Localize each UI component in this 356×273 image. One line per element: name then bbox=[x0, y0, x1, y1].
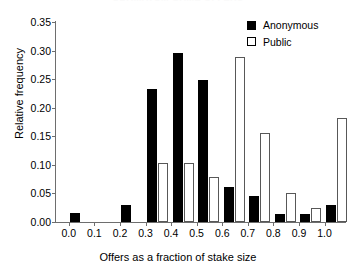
x-tick-label: 0.5 bbox=[189, 228, 204, 239]
x-tick-label: 0.3 bbox=[138, 228, 153, 239]
legend-label-anonymous: Anonymous bbox=[263, 20, 318, 31]
y-tick-label: 0.10 bbox=[31, 160, 51, 171]
x-tick-mark bbox=[146, 222, 147, 226]
y-tick-mark bbox=[52, 79, 56, 80]
bar-public-0.5 bbox=[209, 177, 219, 222]
x-tick-mark bbox=[248, 222, 249, 226]
y-tick-mark bbox=[52, 136, 56, 137]
bar-anonymous-0.9 bbox=[300, 214, 310, 222]
y-tick-mark bbox=[52, 222, 56, 223]
x-tick-label: 0.6 bbox=[215, 228, 230, 239]
legend-label-public: Public bbox=[263, 37, 292, 48]
bar-public-1.0 bbox=[337, 118, 347, 222]
x-tick-mark bbox=[325, 222, 326, 226]
figure-canvas: ULTIMATUM GAME OFFERS Relative frequency… bbox=[0, 0, 356, 273]
x-tick-mark bbox=[197, 222, 198, 226]
bar-anonymous-0.3 bbox=[147, 89, 157, 222]
chart-legend: Anonymous Public bbox=[247, 20, 347, 53]
bar-public-0.7 bbox=[260, 133, 270, 222]
x-tick-mark bbox=[222, 222, 223, 226]
bar-public-0.4 bbox=[184, 163, 194, 222]
bar-anonymous-1.0 bbox=[326, 205, 336, 222]
x-tick-mark bbox=[273, 222, 274, 226]
x-tick-label: 0.4 bbox=[164, 228, 179, 239]
y-tick-mark bbox=[52, 22, 56, 23]
x-tick-label: 0.1 bbox=[87, 228, 102, 239]
y-tick-mark bbox=[52, 108, 56, 109]
y-tick-label: 0.00 bbox=[31, 217, 51, 228]
legend-swatch-anonymous-icon bbox=[247, 21, 256, 30]
cropped-title-text: ULTIMATUM GAME OFFERS bbox=[0, 0, 356, 2]
legend-item-public: Public bbox=[247, 37, 347, 48]
bar-public-0.3 bbox=[158, 163, 168, 222]
x-tick-label: 1.0 bbox=[317, 228, 332, 239]
y-tick-mark bbox=[52, 51, 56, 52]
x-tick-mark bbox=[120, 222, 121, 226]
bar-anonymous-0.4 bbox=[173, 53, 183, 222]
bar-anonymous-0.6 bbox=[224, 187, 234, 222]
legend-swatch-public-icon bbox=[247, 37, 256, 46]
x-axis-title: Offers as a fraction of stake size bbox=[0, 252, 356, 263]
bar-anonymous-0.5 bbox=[198, 80, 208, 222]
bar-anonymous-0.8 bbox=[275, 214, 285, 222]
y-tick-mark bbox=[52, 193, 56, 194]
x-tick-mark bbox=[69, 222, 70, 226]
x-tick-label: 0.9 bbox=[292, 228, 307, 239]
bar-public-0.9 bbox=[311, 208, 321, 222]
y-tick-label: 0.15 bbox=[31, 131, 51, 142]
bar-anonymous-0.7 bbox=[249, 196, 259, 222]
x-tick-mark bbox=[171, 222, 172, 226]
y-tick-label: 0.35 bbox=[31, 17, 51, 28]
y-tick-mark bbox=[52, 165, 56, 166]
bar-anonymous-0.2 bbox=[121, 205, 131, 222]
x-tick-label: 0.2 bbox=[113, 228, 128, 239]
bar-public-0.8 bbox=[286, 193, 296, 222]
y-tick-label: 0.30 bbox=[31, 45, 51, 56]
bar-public-0.6 bbox=[235, 57, 245, 222]
x-axis-line bbox=[55, 222, 346, 223]
y-tick-label: 0.05 bbox=[31, 188, 51, 199]
x-tick-label: 0.7 bbox=[241, 228, 256, 239]
x-tick-label: 0.0 bbox=[61, 228, 76, 239]
x-tick-label: 0.8 bbox=[266, 228, 281, 239]
y-axis-title: Relative frequency bbox=[14, 24, 25, 164]
x-tick-mark bbox=[94, 222, 95, 226]
bar-anonymous-0.0 bbox=[70, 213, 80, 222]
y-tick-label: 0.20 bbox=[31, 102, 51, 113]
x-tick-mark bbox=[299, 222, 300, 226]
y-tick-label: 0.25 bbox=[31, 74, 51, 85]
legend-item-anonymous: Anonymous bbox=[247, 20, 347, 31]
